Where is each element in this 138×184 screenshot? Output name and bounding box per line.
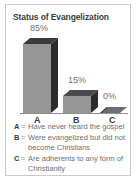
axis-baseline — [20, 113, 128, 114]
legend-key-c: C — [14, 154, 21, 165]
legend-text-c: Are adherents to any form of Christianit… — [28, 154, 130, 175]
bar-a-front-face — [23, 44, 51, 113]
legend-item-a: A = Have never heard the gospel — [14, 122, 130, 133]
bar-a-side-face — [51, 38, 58, 113]
chart-legend: A = Have never heard the gospel B = Were… — [14, 122, 130, 175]
legend-key-b: B — [14, 133, 21, 144]
chart-figure: Status of Evangelization 85% 15% 0% A B … — [5, 4, 131, 176]
legend-text-b: Were evangelized but did not become Chri… — [28, 133, 130, 154]
legend-sep-a: = — [21, 122, 28, 133]
value-label-b: 15% — [68, 75, 86, 85]
plot-area: 85% 15% 0% A B C — [6, 23, 132, 123]
legend-sep-c: = — [21, 154, 28, 165]
bar-b-front-face — [63, 96, 91, 113]
legend-item-b: B = Were evangelized but did not become … — [14, 133, 130, 154]
legend-text-a: Have never heard the gospel — [28, 122, 130, 133]
value-label-c: 0% — [103, 91, 116, 101]
legend-key-a: A — [14, 122, 21, 133]
chart-title: Status of Evangelization — [13, 12, 109, 22]
legend-item-c: C = Are adherents to any form of Christi… — [14, 154, 130, 175]
value-label-a: 85% — [30, 23, 48, 33]
legend-sep-b: = — [21, 133, 28, 144]
